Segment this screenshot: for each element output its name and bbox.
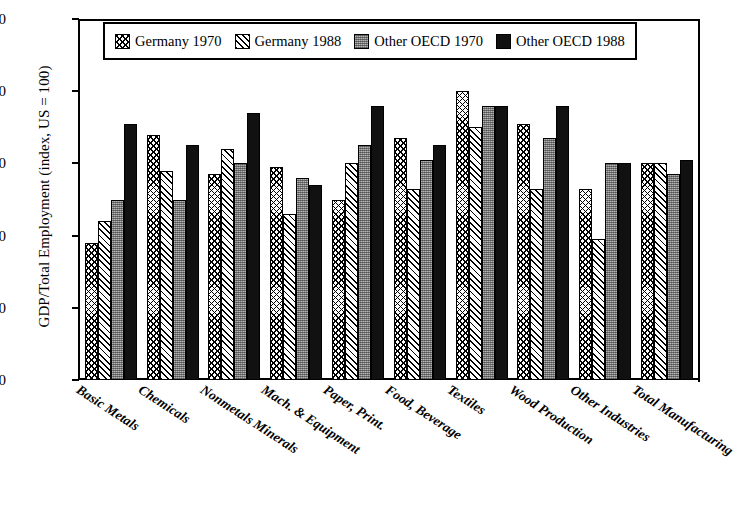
- legend-item: Other OECD 1988: [496, 33, 625, 50]
- bar: [592, 239, 605, 380]
- bar: [394, 138, 407, 380]
- bar: [221, 149, 234, 380]
- bar: [234, 163, 247, 380]
- legend-item: Germany 1970: [115, 33, 222, 50]
- y-axis-tick-label: 100: [0, 12, 6, 27]
- bar: [332, 200, 345, 381]
- bar: [680, 160, 693, 380]
- bar: [283, 214, 296, 380]
- bar-group: [389, 21, 451, 380]
- y-axis-tick-label: 0: [0, 373, 6, 388]
- bar: [420, 160, 433, 380]
- bar: [469, 127, 482, 380]
- bar-group: [204, 21, 266, 380]
- bar-group: [80, 21, 142, 380]
- y-axis-tick-label: 60: [0, 156, 6, 171]
- bar: [641, 163, 654, 380]
- y-axis-title: GDP/Total Employment (index, US = 100): [36, 7, 53, 387]
- bar: [407, 189, 420, 380]
- bar-group: [513, 21, 575, 380]
- bar: [111, 200, 124, 381]
- bar: [667, 174, 680, 380]
- bar: [247, 113, 260, 380]
- bar: [186, 145, 199, 380]
- x-axis-category-label: Total Manufacturing: [629, 382, 736, 459]
- legend-swatch-icon: [115, 34, 130, 49]
- x-axis-category-label: Chemicals: [135, 382, 193, 427]
- bar: [147, 135, 160, 380]
- legend-item: Other OECD 1970: [354, 33, 483, 50]
- bar: [160, 171, 173, 380]
- bar: [456, 91, 469, 380]
- bar: [85, 243, 98, 380]
- legend-label: Other OECD 1970: [374, 33, 483, 50]
- bar: [543, 138, 556, 380]
- legend-label: Germany 1988: [255, 33, 342, 50]
- y-axis-tick-label: 40: [0, 228, 6, 243]
- bar: [98, 221, 111, 380]
- bar: [208, 174, 221, 380]
- bar: [654, 163, 667, 380]
- x-axis-category-label: Textiles: [444, 382, 488, 418]
- bar: [309, 185, 322, 380]
- bar-group: [265, 21, 327, 380]
- bar: [358, 145, 371, 380]
- y-axis-tick-label: 20: [0, 300, 6, 315]
- y-axis-tick-label: 80: [0, 84, 6, 99]
- bar: [556, 106, 569, 380]
- bar-group: [636, 21, 698, 380]
- bar: [345, 163, 358, 380]
- bar: [618, 163, 631, 380]
- bar: [173, 200, 186, 381]
- x-axis-category-label: Basic Metals: [73, 382, 142, 434]
- legend-item: Germany 1988: [235, 33, 342, 50]
- bar: [517, 124, 530, 380]
- bar: [605, 163, 618, 380]
- bar: [579, 189, 592, 380]
- legend-swatch-icon: [354, 34, 369, 49]
- legend-label: Germany 1970: [135, 33, 222, 50]
- legend-swatch-icon: [235, 34, 250, 49]
- plot-frame-right: [698, 19, 700, 382]
- x-axis-category-labels: Basic MetalsChemicalsNonmetals MineralsM…: [80, 382, 698, 522]
- bar: [270, 167, 283, 380]
- legend-label: Other OECD 1988: [516, 33, 625, 50]
- bar: [124, 124, 137, 380]
- bar-group: [574, 21, 636, 380]
- bar-group: [142, 21, 204, 380]
- bar: [296, 178, 309, 380]
- bar-group: [451, 21, 513, 380]
- bar: [495, 106, 508, 380]
- legend-swatch-icon: [496, 34, 511, 49]
- bar: [482, 106, 495, 380]
- bar-group: [327, 21, 389, 380]
- bar: [371, 106, 384, 380]
- bar-groups: [80, 21, 698, 380]
- bar: [530, 189, 543, 380]
- chart-legend: Germany 1970Germany 1988Other OECD 1970O…: [103, 22, 637, 60]
- bar: [433, 145, 446, 380]
